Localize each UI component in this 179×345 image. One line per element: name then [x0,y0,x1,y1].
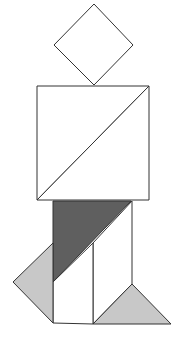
head-square [54,4,133,85]
tangram-figure [0,0,179,345]
left-foot-triangle [13,243,53,323]
